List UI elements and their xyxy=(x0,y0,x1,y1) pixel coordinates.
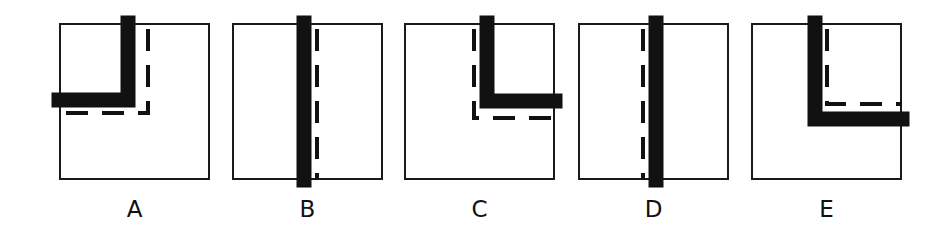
panel-a xyxy=(59,23,210,180)
panel-drawing xyxy=(404,23,555,180)
panel-label-e: E xyxy=(751,196,902,222)
panel-drawing xyxy=(232,23,383,180)
dashed-line xyxy=(827,23,902,104)
panel-drawing xyxy=(751,23,902,180)
panel-c xyxy=(404,23,555,180)
panel-label-c: C xyxy=(404,196,555,222)
panel-label-d: D xyxy=(578,196,729,222)
panel-label-b: B xyxy=(232,196,383,222)
panel-drawing xyxy=(578,23,729,180)
panel-b xyxy=(232,23,383,180)
panel-e xyxy=(751,23,902,180)
solid-line xyxy=(487,23,555,101)
solid-line xyxy=(59,23,128,100)
panel-d xyxy=(578,23,729,180)
panel-drawing xyxy=(59,23,210,180)
panel-label-a: A xyxy=(59,196,210,222)
